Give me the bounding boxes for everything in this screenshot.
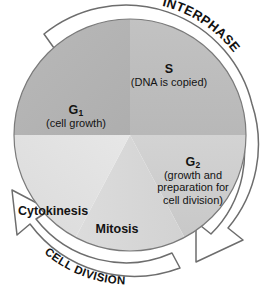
label-g2-description-line3: cell division) xyxy=(133,194,253,206)
label-cytokinesis: Cytokinesis xyxy=(18,204,118,218)
label-g1-description: (cell growth) xyxy=(24,117,128,129)
label-g1-head: G1 xyxy=(24,103,128,117)
label-mitosis: Mitosis xyxy=(84,222,150,236)
label-g2-subscript: 2 xyxy=(196,160,201,170)
label-s-description: (DNA is copied) xyxy=(112,76,226,88)
label-s: S (DNA is copied) xyxy=(112,62,226,88)
label-g2: G2 (growth and preparation for cell divi… xyxy=(133,155,253,206)
label-g1: G1 (cell growth) xyxy=(24,103,128,129)
label-g2-description-line2: preparation for xyxy=(133,181,253,193)
label-g2-description-line1: (growth and xyxy=(133,169,253,181)
cell-cycle-svg: INTERPHASE CELL DIVISION xyxy=(0,0,271,294)
label-s-head: S xyxy=(112,62,226,76)
label-g1-subscript: 1 xyxy=(79,108,84,118)
label-g2-head: G2 xyxy=(133,155,253,169)
cell-cycle-diagram: INTERPHASE CELL DIVISION G1 (cell growth… xyxy=(0,0,271,294)
